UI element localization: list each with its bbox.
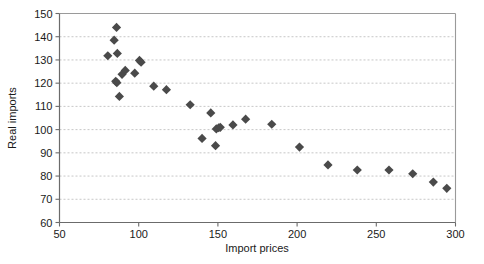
data-point [241, 115, 250, 124]
data-point [113, 49, 122, 58]
scatter-chart-figure: 60708090100110120130140150 5010015020025… [0, 0, 484, 264]
data-point [115, 92, 124, 101]
data-point [162, 85, 171, 94]
y-tick-label-80: 80 [40, 170, 52, 182]
data-point [211, 141, 220, 150]
data-point [206, 108, 215, 117]
y-tick-label-150: 150 [34, 8, 52, 20]
y-tick-label-60: 60 [40, 217, 52, 229]
data-point [353, 165, 362, 174]
data-point [442, 184, 451, 193]
x-axis-tick-labels: 50100150200250300 [53, 228, 464, 240]
x-axis-title: Import prices [225, 242, 289, 254]
y-tick-label-120: 120 [34, 77, 52, 89]
x-tick-label-150: 150 [209, 228, 227, 240]
data-point [197, 134, 206, 143]
data-point [384, 165, 393, 174]
x-tick-label-100: 100 [130, 228, 148, 240]
data-points-group [103, 23, 451, 193]
x-tick-label-50: 50 [53, 228, 65, 240]
y-axis-tick-labels: 60708090100110120130140150 [34, 8, 52, 229]
tick-marks-group [56, 14, 456, 227]
data-point [112, 23, 121, 32]
x-tick-label-250: 250 [367, 228, 385, 240]
y-tick-label-70: 70 [40, 193, 52, 205]
x-tick-label-200: 200 [288, 228, 306, 240]
y-tick-label-140: 140 [34, 31, 52, 43]
y-tick-label-110: 110 [35, 100, 53, 112]
data-point [267, 120, 276, 129]
data-point [228, 120, 237, 129]
x-tick-label-300: 300 [446, 228, 464, 240]
y-axis-title: Real imports [6, 87, 18, 149]
plot-frame [60, 14, 456, 223]
y-tick-label-130: 130 [34, 54, 52, 66]
data-point [323, 160, 332, 169]
data-point [408, 169, 417, 178]
data-point [186, 100, 195, 109]
chart-canvas: 60708090100110120130140150 5010015020025… [0, 0, 484, 264]
gridlines-group [60, 37, 456, 200]
data-point [130, 69, 139, 78]
data-point [295, 142, 304, 151]
data-point [103, 51, 112, 60]
y-tick-label-90: 90 [40, 147, 52, 159]
data-point [429, 177, 438, 186]
y-tick-label-100: 100 [34, 124, 52, 136]
